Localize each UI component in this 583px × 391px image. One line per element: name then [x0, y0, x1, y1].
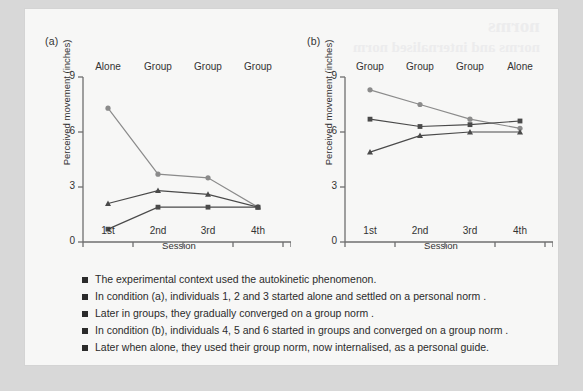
- y-tick-label: 0: [59, 235, 75, 246]
- legend-note-text: Later in groups, they gradually converge…: [95, 307, 374, 320]
- x-tick-label: 3rd: [183, 225, 233, 236]
- y-tick-label: 3: [321, 180, 337, 191]
- legend-notes-list: The experimental context used the autoki…: [82, 273, 552, 358]
- x-tick-label: 4th: [233, 225, 283, 236]
- y-tick-label: 6: [321, 125, 337, 136]
- list-item: In condition (a), individuals 1, 2 and 3…: [82, 290, 552, 303]
- square-bullet-icon: [82, 277, 88, 283]
- bleed-through-title: norms: [488, 15, 540, 37]
- chart-b-plot: [301, 35, 553, 257]
- y-tick-label: 6: [59, 125, 75, 136]
- figure-panel: norms norms and internalised norm (a) Al…: [25, 9, 558, 365]
- square-bullet-icon: [82, 294, 88, 300]
- list-item: Later when alone, they used their group …: [82, 341, 552, 354]
- legend-note-text: In condition (b), individuals 4, 5 and 6…: [95, 324, 508, 337]
- x-tick-label: 2nd: [133, 225, 183, 236]
- legend-note-text: The experimental context used the autoki…: [95, 273, 376, 286]
- legend-note-text: Later when alone, they used their group …: [95, 341, 489, 354]
- square-bullet-icon: [82, 345, 88, 351]
- chart-b: (b) Group Group Group Alone Perceived mo…: [301, 35, 553, 257]
- x-tick-label: 1st: [83, 225, 133, 236]
- list-item: The experimental context used the autoki…: [82, 273, 552, 286]
- list-item: In condition (b), individuals 4, 5 and 6…: [82, 324, 552, 337]
- x-tick-label: 1st: [345, 225, 395, 236]
- y-tick-label: 9: [321, 70, 337, 81]
- y-tick-label: 9: [59, 70, 75, 81]
- chart-a: (a) Alone Group Group Group Perceived mo…: [39, 35, 291, 257]
- chart-a-plot: [39, 35, 291, 257]
- y-tick-label: 3: [59, 180, 75, 191]
- list-item: Later in groups, they gradually converge…: [82, 307, 552, 320]
- legend-note-text: In condition (a), individuals 1, 2 and 3…: [95, 290, 486, 303]
- x-tick-label: 3rd: [445, 225, 495, 236]
- x-tick-label: 2nd: [395, 225, 445, 236]
- y-tick-label: 0: [321, 235, 337, 246]
- x-tick-label: 4th: [495, 225, 545, 236]
- square-bullet-icon: [82, 311, 88, 317]
- square-bullet-icon: [82, 328, 88, 334]
